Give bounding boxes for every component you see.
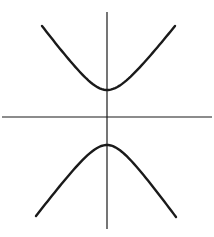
- upper-hyperbola-branch: [42, 26, 175, 90]
- lower-hyperbola-branch: [36, 145, 176, 217]
- hyperbola-diagram: [0, 0, 214, 237]
